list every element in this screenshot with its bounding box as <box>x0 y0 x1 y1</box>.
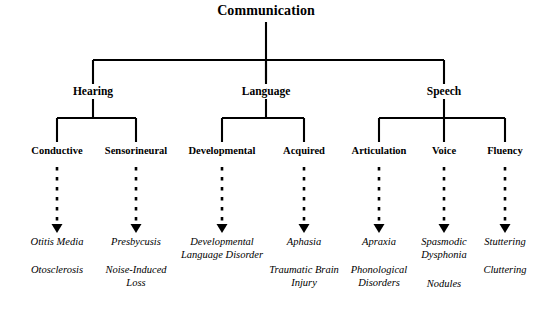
leaf-otosclerosis: Otosclerosis <box>11 263 103 276</box>
arrowhead-articulation <box>374 224 385 233</box>
node-sensorineural: Sensorineural <box>105 145 167 156</box>
node-language: Language <box>242 85 291 97</box>
leaf-traumatic-brain-injury: Traumatic Brain Injury <box>261 263 347 290</box>
node-hearing: Hearing <box>73 85 113 97</box>
communication-disorders-tree-diagram: Communication Hearing Language Speech Co… <box>0 0 549 309</box>
arrowhead-acquired <box>299 224 310 233</box>
arrowhead-fluency <box>500 224 511 233</box>
leaf-apraxia: Apraxia <box>339 235 419 248</box>
arrowhead-voice <box>439 224 450 233</box>
leaf-aphasia: Aphasia <box>263 235 345 248</box>
leaf-presbycusis: Presbycusis <box>95 235 177 248</box>
arrowhead-developmental <box>217 224 228 233</box>
leaf-nodules: Nodules <box>408 277 480 290</box>
node-acquired: Acquired <box>283 145 325 156</box>
arrowhead-conductive <box>52 224 63 233</box>
leaf-noise-induced-loss: Noise-Induced Loss <box>95 263 177 290</box>
leaf-otitis-media: Otitis Media <box>16 235 98 248</box>
node-developmental: Developmental <box>188 145 255 156</box>
leaf-stuttering: Stuttering <box>468 235 542 248</box>
node-speech: Speech <box>427 85 462 97</box>
node-voice: Voice <box>432 145 456 156</box>
arrowhead-sensorineural <box>131 224 142 233</box>
leaf-developmental-language-disorder: Developmental Language Disorder <box>180 235 264 262</box>
leaf-cluttering: Cluttering <box>468 263 542 276</box>
node-communication: Communication <box>217 4 315 19</box>
node-articulation: Articulation <box>352 145 407 156</box>
node-fluency: Fluency <box>487 145 523 156</box>
node-conductive: Conductive <box>31 145 82 156</box>
